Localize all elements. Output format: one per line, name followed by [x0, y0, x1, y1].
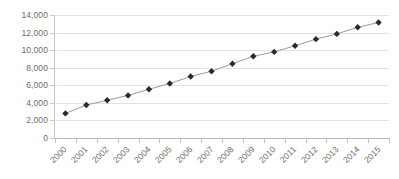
series-line	[65, 22, 378, 113]
x-axis-tick-label: 2010	[258, 145, 278, 165]
data-series	[55, 15, 389, 138]
x-axis-tick-label: 2004	[133, 145, 153, 165]
x-axis-tick-mark	[326, 139, 327, 143]
x-axis-tick-mark	[118, 139, 119, 143]
x-axis-tick-label: 2003	[112, 145, 132, 165]
x-axis-tick-label: 2011	[279, 145, 298, 164]
y-axis-tick-label: 8,000	[0, 64, 48, 73]
x-axis-tick-label: 2001	[70, 145, 90, 165]
line-chart: 02,0004,0006,0008,00010,00012,00014,000 …	[0, 0, 399, 179]
data-point-marker	[125, 92, 131, 98]
data-point-marker	[334, 31, 340, 37]
x-axis-tick-label: 2015	[362, 145, 382, 165]
x-axis-tick-label: 2013	[320, 145, 340, 165]
data-point-marker	[146, 86, 152, 92]
data-point-marker	[354, 24, 360, 30]
plot-area	[55, 15, 389, 138]
data-point-marker	[375, 19, 381, 25]
x-axis-tick-label: 2012	[300, 145, 320, 165]
x-axis-tick-mark	[285, 139, 286, 143]
y-axis-tick-label: 12,000	[0, 29, 48, 38]
x-axis-tick-label: 2008	[216, 145, 236, 165]
x-axis-tick-label: 2005	[153, 145, 173, 165]
x-axis-tick-mark	[389, 139, 390, 143]
x-axis-tick-mark	[264, 139, 265, 143]
x-axis-tick-mark	[97, 139, 98, 143]
x-axis-tick-mark	[139, 139, 140, 143]
x-axis-tick-label: 2009	[237, 145, 257, 165]
x-axis-tick-label: 2002	[91, 145, 111, 165]
x-axis-tick-mark	[55, 139, 56, 143]
x-axis-tick-mark	[347, 139, 348, 143]
y-axis-tick-label: 4,000	[0, 99, 48, 108]
data-point-marker	[167, 80, 173, 86]
x-axis-tick-label: 2014	[341, 145, 361, 165]
x-axis-tick-label: 2007	[195, 145, 215, 165]
y-axis-tick-label: 2,000	[0, 116, 48, 125]
data-point-marker	[208, 68, 214, 74]
y-axis-tick-label: 0	[0, 134, 48, 143]
x-axis-tick-mark	[222, 139, 223, 143]
y-axis-tick-label: 6,000	[0, 81, 48, 90]
data-point-marker	[187, 73, 193, 79]
data-point-marker	[250, 53, 256, 59]
x-axis-tick-mark	[201, 139, 202, 143]
data-point-marker	[83, 102, 89, 108]
x-axis-tick-mark	[76, 139, 77, 143]
x-axis-tick-mark	[306, 139, 307, 143]
data-point-marker	[62, 110, 68, 116]
data-point-marker	[271, 49, 277, 55]
x-axis-tick-mark	[180, 139, 181, 143]
data-point-marker	[292, 43, 298, 49]
x-axis-tick-mark	[368, 139, 369, 143]
y-axis-tick-label: 10,000	[0, 46, 48, 55]
y-axis-tick-label: 14,000	[0, 11, 48, 20]
x-axis-tick-label: 2006	[174, 145, 194, 165]
data-point-marker	[229, 61, 235, 67]
x-axis-tick-mark	[243, 139, 244, 143]
x-axis-tick-label: 2000	[49, 145, 69, 165]
data-point-marker	[104, 97, 110, 103]
x-axis-tick-mark	[159, 139, 160, 143]
data-point-marker	[313, 36, 319, 42]
